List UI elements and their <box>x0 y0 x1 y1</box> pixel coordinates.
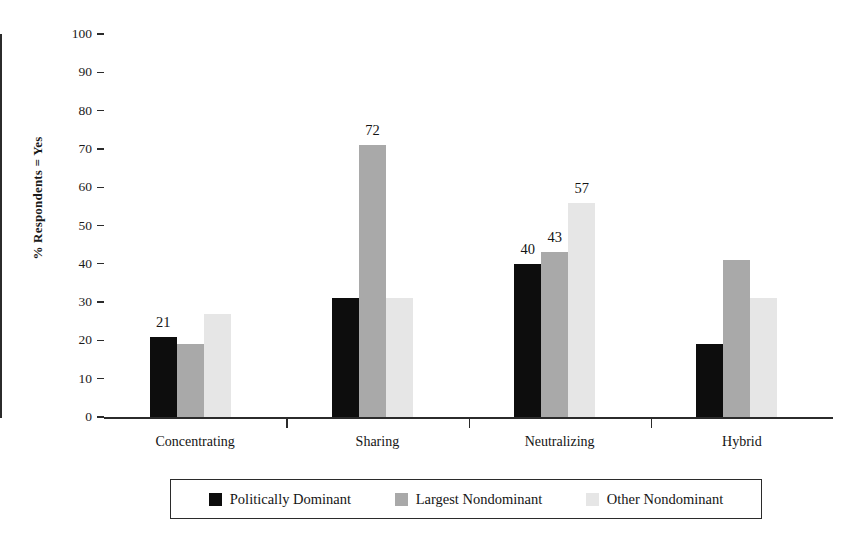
bar-concentrating-series-0 <box>150 337 177 417</box>
x-tick-3 <box>651 418 652 428</box>
y-tick-30 <box>97 301 104 302</box>
category-label-neutralizing: Neutralizing <box>470 434 650 450</box>
legend-label-2: Other Nondominant <box>607 491 723 508</box>
y-tick-10 <box>97 378 104 379</box>
bar-neutralizing-series-0 <box>514 264 541 417</box>
category-label-hybrid: Hybrid <box>652 434 832 450</box>
bar-concentrating-series-2 <box>204 314 231 417</box>
bar-sharing-series-0 <box>332 298 359 417</box>
bar-sharing-series-2 <box>386 298 413 417</box>
y-tick-label-40: 40 <box>52 257 92 271</box>
legend-swatch-icon-1 <box>395 493 408 506</box>
x-tick-1 <box>286 418 287 428</box>
y-tick-label-70: 70 <box>52 142 92 156</box>
legend-label-1: Largest Nondominant <box>416 491 543 508</box>
y-tick-label-50: 50 <box>52 219 92 233</box>
y-tick-label-90: 90 <box>52 65 92 79</box>
legend-label-0: Politically Dominant <box>230 491 351 508</box>
y-tick-label-80: 80 <box>52 104 92 118</box>
y-tick-label-100: 100 <box>52 27 92 41</box>
category-label-sharing: Sharing <box>287 434 467 450</box>
legend-item-2[interactable]: Other Nondominant <box>586 491 723 508</box>
y-tick-label-30: 30 <box>52 295 92 309</box>
legend-item-0[interactable]: Politically Dominant <box>209 491 351 508</box>
bar-value-neutralizing-series-1: 43 <box>530 229 580 246</box>
y-tick-label-10: 10 <box>52 372 92 386</box>
y-tick-80 <box>97 110 104 111</box>
y-tick-60 <box>97 187 104 188</box>
legend: Politically DominantLargest NondominantO… <box>170 479 762 519</box>
y-tick-label-0: 0 <box>52 410 92 424</box>
category-label-concentrating: Concentrating <box>105 434 285 450</box>
y-axis-title: % Respondents = Yes <box>30 98 46 298</box>
bar-value-neutralizing-series-2: 57 <box>557 180 607 197</box>
x-tick-2 <box>469 418 470 428</box>
bar-chart: % Respondents = Yes 10090807060504030201… <box>0 0 868 546</box>
legend-swatch-icon-0 <box>209 493 222 506</box>
y-tick-label-60: 60 <box>52 180 92 194</box>
bar-neutralizing-series-1 <box>541 252 568 417</box>
bar-hybrid-series-2 <box>750 298 777 417</box>
y-tick-0 <box>97 416 104 417</box>
y-tick-50 <box>97 225 104 226</box>
y-tick-40 <box>97 263 104 264</box>
bar-hybrid-series-1 <box>723 260 750 417</box>
bar-hybrid-series-0 <box>696 344 723 417</box>
legend-item-1[interactable]: Largest Nondominant <box>395 491 543 508</box>
bar-value-concentrating-series-0: 21 <box>138 314 188 331</box>
y-tick-90 <box>97 72 104 73</box>
y-tick-70 <box>97 148 104 149</box>
y-tick-100 <box>97 33 104 34</box>
bar-concentrating-series-1 <box>177 344 204 417</box>
legend-swatch-icon-2 <box>586 493 599 506</box>
bar-value-sharing-series-1: 72 <box>347 122 397 139</box>
y-tick-20 <box>97 340 104 341</box>
y-tick-label-20: 20 <box>52 333 92 347</box>
bar-sharing-series-1 <box>359 145 386 417</box>
y-axis-line <box>0 34 2 418</box>
